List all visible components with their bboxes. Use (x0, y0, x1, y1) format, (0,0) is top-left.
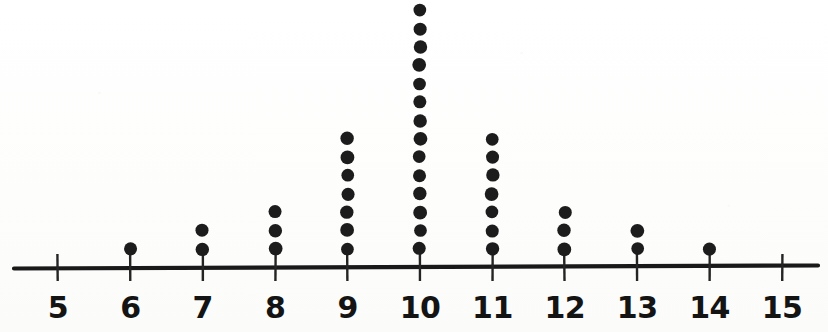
data-dot (195, 224, 208, 237)
number-line-axis (14, 266, 818, 269)
data-dot (341, 169, 354, 182)
data-dot (413, 206, 427, 220)
data-dot (124, 242, 137, 255)
data-dot (413, 114, 426, 127)
data-dot (413, 187, 426, 200)
tick-label-12: 12 (544, 290, 585, 325)
data-dot (269, 205, 282, 218)
data-dot (559, 206, 572, 219)
tick-label-5: 5 (48, 290, 68, 325)
data-dot (630, 224, 644, 238)
data-dot (486, 206, 499, 219)
tick-label-11: 11 (472, 290, 513, 325)
data-dot (340, 223, 354, 237)
data-dot (269, 242, 283, 256)
data-dot (414, 23, 427, 36)
tick-label-14: 14 (689, 290, 730, 325)
data-dot (341, 151, 355, 165)
data-dot (703, 243, 716, 256)
data-dot (269, 224, 282, 237)
data-dot (340, 132, 353, 145)
tick-label-13: 13 (617, 290, 658, 325)
dot-plot-figure: 56789101112131415 (0, 0, 828, 332)
tick-label-10: 10 (400, 290, 441, 325)
data-dot (413, 242, 426, 255)
data-dot (486, 225, 499, 238)
data-dot (341, 243, 354, 256)
data-dot (412, 58, 426, 72)
data-dot (342, 188, 355, 201)
data-dot (413, 78, 426, 91)
number-line (14, 266, 818, 269)
axis-tick-labels: 56789101112131415 (48, 290, 803, 325)
data-dot (486, 168, 499, 181)
data-dot (414, 40, 427, 53)
data-dot (486, 133, 499, 146)
data-dot (631, 242, 644, 255)
data-dot (413, 95, 426, 108)
data-dot (196, 243, 209, 256)
data-dot (413, 4, 426, 17)
tick-label-8: 8 (265, 290, 285, 325)
data-dot (557, 224, 570, 237)
data-dot (340, 205, 353, 218)
data-dot (485, 187, 499, 201)
data-dot-stacks (124, 4, 716, 257)
data-dot (414, 224, 427, 237)
tick-label-9: 9 (337, 290, 357, 325)
data-dot (486, 242, 499, 255)
dot-plot-canvas: 56789101112131415 (0, 0, 828, 332)
tick-label-6: 6 (120, 290, 140, 325)
data-dot (486, 151, 499, 164)
data-dot (414, 132, 428, 146)
data-dot (413, 169, 426, 182)
tick-label-7: 7 (193, 290, 213, 325)
tick-label-15: 15 (762, 290, 803, 325)
data-dot (557, 243, 571, 257)
data-dot (413, 150, 426, 163)
